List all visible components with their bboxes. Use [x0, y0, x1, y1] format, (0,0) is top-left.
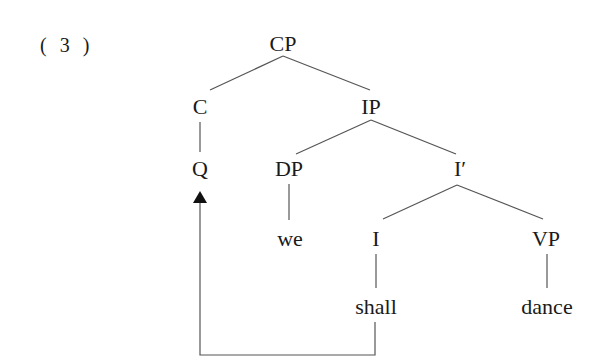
node-vp: VP: [532, 227, 560, 251]
node-dance: dance: [521, 295, 572, 319]
arrowhead-icon: [193, 191, 207, 203]
node-ip: IP: [361, 95, 381, 119]
edge-ip-ibar: [371, 120, 456, 154]
node-q: Q: [192, 157, 208, 181]
node-i: I: [372, 227, 379, 251]
node-shall: shall: [355, 295, 397, 319]
edge-ibar-vp: [457, 185, 543, 219]
node-dp: DP: [275, 157, 303, 181]
node-cp: CP: [270, 32, 297, 56]
edge-ip-dp: [296, 120, 371, 154]
edge-cp-ip: [283, 56, 370, 90]
node-ibar: I′: [454, 157, 466, 181]
node-c: C: [193, 95, 208, 119]
edge-ibar-i: [383, 185, 457, 219]
edge-cp-c: [210, 56, 283, 90]
movement-arrow-line: [200, 196, 375, 355]
node-we: we: [277, 227, 303, 251]
